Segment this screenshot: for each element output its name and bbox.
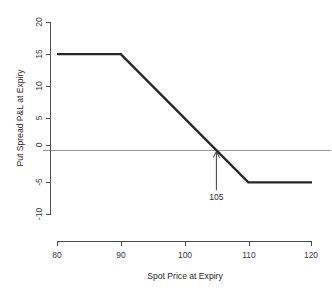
x-tick-label-120: 120 (304, 250, 318, 260)
chart-canvas: 20 15 10 5 0 -5 -10 Put Spread P&L at Ex… (0, 0, 332, 292)
y-axis-title: Put Spread P&L at Expiry (15, 69, 25, 167)
x-tick-label-90: 90 (116, 250, 126, 260)
breakeven-label: 105 (209, 192, 223, 202)
y-tick-label-neg5: -5 (34, 178, 44, 186)
x-axis-title: Spot Price at Expiry (147, 271, 223, 281)
y-tick-label-20: 20 (34, 17, 44, 27)
y-tick-label-neg10: -10 (34, 208, 44, 221)
y-tick-label-5: 5 (34, 115, 44, 120)
x-tick-label-100: 100 (178, 250, 192, 260)
x-tick-label-110: 110 (242, 250, 256, 260)
x-tick-label-80: 80 (52, 250, 62, 260)
payoff-series-line-segments (57, 54, 312, 182)
y-tick-label-15: 15 (34, 49, 44, 59)
y-tick-label-10: 10 (34, 81, 44, 91)
y-tick-label-0: 0 (34, 142, 44, 147)
payoff-chart: 20 15 10 5 0 -5 -10 Put Spread P&L at Ex… (0, 0, 332, 292)
